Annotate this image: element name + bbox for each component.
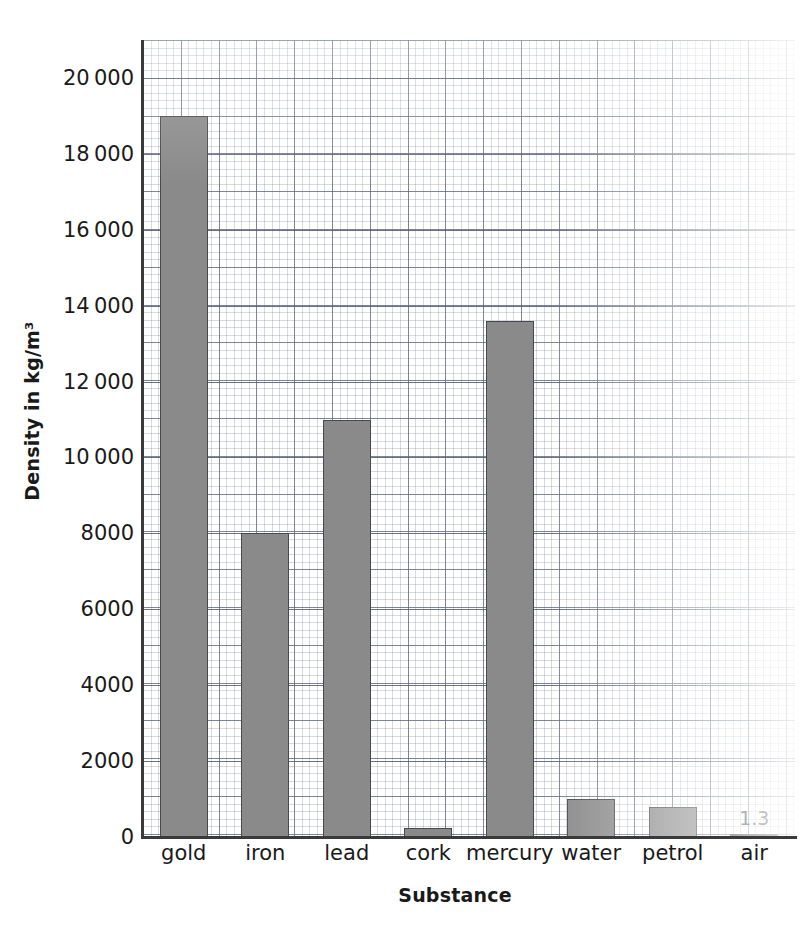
x-tick-label-air: air [741,841,768,865]
y-tick-label: 18 000 [0,142,143,166]
bar-lead[interactable] [323,420,371,837]
x-tick-label-iron: iron [245,841,285,865]
bar-value-label-air: 1.3 [739,807,769,829]
y-axis-line [141,40,144,838]
gridline [143,457,795,458]
y-tick-label: 14 000 [0,294,143,318]
x-tick-label-cork: cork [406,841,451,865]
y-tick-label: 2000 [0,749,143,773]
y-tick-label: 16 000 [0,218,143,242]
gridline [143,154,795,155]
y-tick-label: 0 [0,825,143,849]
gridline [143,78,795,79]
x-tick-label-water: water [561,841,621,865]
x-tick-label-gold: gold [161,841,206,865]
bar-petrol[interactable] [649,807,697,837]
y-tick-label: 10 000 [0,445,143,469]
y-tick-label: 8000 [0,521,143,545]
x-axis-title: Substance [110,884,800,906]
x-tick-label-lead: lead [324,841,369,865]
gridline [143,306,795,307]
y-tick-label: 6000 [0,597,143,621]
x-axis-line [141,836,797,839]
bar-iron[interactable] [241,533,289,837]
x-tick-label-mercury: mercury [466,841,553,865]
bar-gold[interactable] [160,116,208,837]
y-tick-label: 12 000 [0,370,143,394]
x-axis-tick-labels: goldironleadcorkmercurywaterpetrolair [143,841,795,881]
gridline [143,382,795,383]
y-axis-tick-labels: 0200040006000800010 00012 00014 00016 00… [0,0,143,928]
bar-water[interactable] [567,799,615,837]
y-tick-label: 4000 [0,673,143,697]
bar-mercury[interactable] [486,321,534,837]
y-tick-label: 20 000 [0,66,143,90]
x-tick-label-petrol: petrol [642,841,703,865]
density-bar-chart: Density in kg/m³ 0200040006000800010 000… [0,0,805,928]
plot-area: 1.3 [143,40,795,837]
gridline [143,230,795,231]
